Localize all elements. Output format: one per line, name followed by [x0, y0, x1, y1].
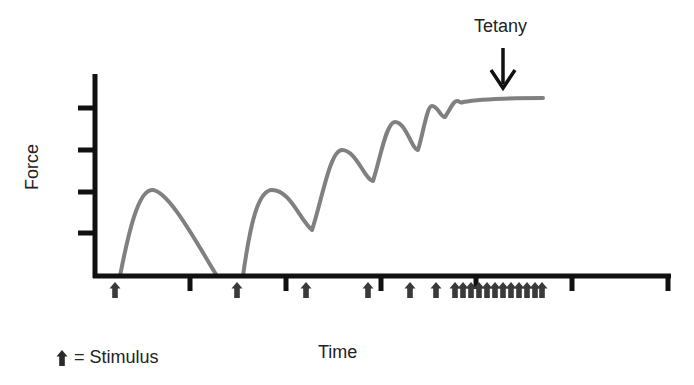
x-axis-label: Time	[318, 342, 357, 363]
stimulus-arrow-icon	[458, 282, 469, 298]
stimulus-markers	[110, 282, 548, 298]
stimulus-arrow-icon	[56, 349, 68, 367]
force-curve	[120, 98, 543, 276]
stimulus-arrow-icon	[405, 282, 416, 298]
stimulus-arrow-icon	[506, 282, 517, 298]
legend-text: = Stimulus	[74, 347, 159, 368]
stimulus-arrow-icon	[482, 282, 493, 298]
stimulus-arrow-icon	[301, 282, 312, 298]
legend: = Stimulus	[56, 347, 159, 368]
stimulus-arrow-icon	[537, 282, 548, 298]
tetany-arrow-icon	[491, 48, 515, 88]
y-axis-label: Force	[22, 144, 43, 190]
force-time-chart	[0, 0, 694, 385]
stimulus-arrow-icon	[490, 282, 501, 298]
stimulus-arrow-icon	[363, 282, 374, 298]
stimulus-arrow-icon	[498, 282, 509, 298]
stimulus-arrow-icon	[431, 282, 442, 298]
stimulus-arrow-icon	[522, 282, 533, 298]
stimulus-arrow-icon	[450, 282, 461, 298]
stimulus-arrow-icon	[530, 282, 541, 298]
stimulus-arrow-icon	[232, 282, 243, 298]
stimulus-arrow-icon	[514, 282, 525, 298]
tetany-annotation: Tetany	[474, 16, 527, 37]
stimulus-arrow-icon	[110, 282, 121, 298]
y-ticks	[78, 108, 95, 233]
